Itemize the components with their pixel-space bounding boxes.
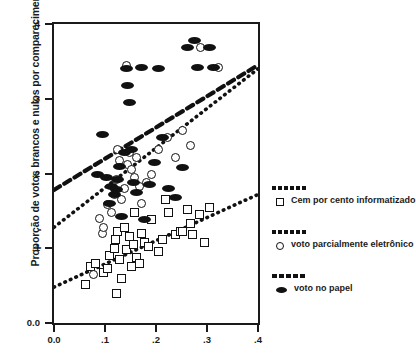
data-point-filled-oval (203, 44, 216, 51)
legend-marker-open-square (276, 198, 284, 206)
x-tick-mark (104, 325, 106, 332)
data-point-open-square (164, 208, 173, 217)
data-point-open-circle (147, 170, 156, 179)
data-point-filled-oval (162, 185, 175, 192)
chart-legend: Cem por cento informatizadovoto parcialm… (272, 186, 412, 318)
x-tick-label: .4 (238, 334, 278, 345)
data-point-open-square (158, 235, 167, 244)
data-point-filled-oval (115, 213, 128, 220)
data-points-layer (54, 24, 258, 323)
data-point-open-circle (95, 214, 104, 223)
x-tick-mark (155, 325, 157, 332)
data-point-open-circle (137, 199, 146, 208)
data-point-open-square (130, 208, 139, 217)
data-point-open-square (200, 238, 209, 247)
legend-label: voto no papel (294, 283, 353, 293)
x-tick-label: .2 (136, 334, 176, 345)
data-point-filled-oval (169, 194, 182, 201)
data-point-open-circle (171, 153, 180, 162)
data-point-open-square (111, 235, 120, 244)
y-tick-label: 0.0 (4, 317, 40, 328)
data-point-filled-oval (103, 200, 116, 207)
plot-area (52, 22, 260, 325)
data-point-filled-oval (96, 131, 109, 138)
y-tick-mark (45, 98, 52, 100)
legend-label: Cem por cento informatizado (291, 195, 416, 205)
data-point-open-square (137, 229, 146, 238)
y-tick-mark (45, 322, 52, 324)
x-tick-mark (257, 325, 259, 332)
data-point-open-square (188, 230, 197, 239)
legend-line-sample (272, 274, 306, 278)
data-point-filled-oval (143, 181, 156, 188)
data-point-open-square (183, 205, 192, 214)
x-tick-mark (206, 325, 208, 332)
data-point-filled-oval (188, 37, 201, 44)
legend-item: voto parcialmente eletrônico (272, 230, 412, 274)
data-point-filled-oval (191, 64, 204, 71)
data-point-open-square (117, 274, 126, 283)
legend-marker-filled-oval (276, 287, 287, 293)
data-point-open-square (129, 240, 138, 249)
data-point-open-square (144, 242, 153, 251)
data-point-filled-oval (148, 159, 161, 166)
data-point-open-square (110, 244, 119, 253)
data-point-filled-oval (121, 82, 134, 89)
legend-label: voto parcialmente eletrônico (291, 239, 414, 249)
data-point-filled-oval (113, 163, 126, 170)
data-point-open-circle (132, 153, 141, 162)
data-point-filled-oval (123, 99, 136, 106)
data-point-filled-oval (152, 65, 165, 72)
data-point-open-circle (178, 126, 187, 135)
data-point-open-square (115, 255, 124, 264)
legend-line-sample (272, 230, 306, 234)
data-point-open-square (112, 289, 121, 298)
x-tick-label: .3 (187, 334, 227, 345)
data-point-filled-oval (176, 164, 189, 171)
data-point-open-square (103, 264, 112, 273)
x-tick-label: 0.0 (34, 334, 74, 345)
y-tick-label: .2 (4, 168, 40, 179)
data-point-open-circle (89, 270, 98, 279)
data-point-open-square (81, 280, 90, 289)
data-point-open-square (205, 203, 214, 212)
data-point-filled-oval (127, 179, 140, 186)
x-tick-mark (53, 325, 55, 332)
data-point-open-square (135, 259, 144, 268)
y-tick-mark (45, 23, 52, 25)
legend-item: voto no papel (272, 274, 412, 318)
data-point-open-circle (99, 223, 108, 232)
data-point-filled-oval (130, 189, 143, 196)
data-point-open-circle (154, 145, 163, 154)
y-tick-label: .4 (4, 18, 40, 29)
data-point-open-square (186, 219, 195, 228)
data-point-filled-oval (207, 64, 220, 71)
x-tick-label: .1 (85, 334, 125, 345)
y-tick-mark (45, 173, 52, 175)
data-point-filled-oval (111, 176, 124, 183)
data-point-open-circle (186, 141, 195, 150)
legend-item: Cem por cento informatizado (272, 186, 412, 230)
data-point-filled-oval (181, 44, 194, 51)
data-point-open-square (120, 223, 129, 232)
data-point-filled-oval (120, 65, 133, 72)
legend-line-sample (272, 186, 306, 190)
legend-marker-open-circle (276, 242, 284, 250)
y-tick-mark (45, 247, 52, 249)
data-point-open-square (91, 259, 100, 268)
data-point-open-square (154, 247, 163, 256)
data-point-open-square (195, 210, 204, 219)
y-tick-label: .1 (4, 242, 40, 253)
data-point-filled-oval (135, 64, 148, 71)
data-point-filled-oval (156, 134, 169, 141)
y-tick-label: .3 (4, 93, 40, 104)
